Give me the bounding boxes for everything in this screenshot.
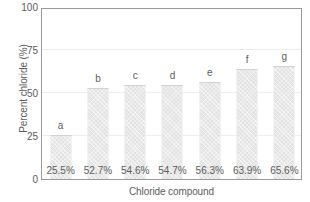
bar-value-b: 52.7% — [84, 166, 112, 176]
bar-letter-e: e — [207, 68, 213, 78]
bar-group-a[interactable]: a25.5% — [42, 9, 79, 179]
bar-value-g: 65.6% — [270, 166, 298, 176]
y-axis-ticks: 0255075100 — [14, 0, 38, 202]
bar-value-e: 56.3% — [196, 166, 224, 176]
bar-chart: Percent chloride (%) 0255075100 a25.5%b5… — [0, 0, 310, 202]
y-tick-label-75: 75 — [14, 46, 38, 56]
bar-letter-f: f — [246, 55, 249, 65]
bar-letter-g: g — [282, 52, 288, 62]
plot-area: a25.5%b52.7%c54.6%d54.7%e56.3%f63.9%g65.… — [41, 8, 302, 180]
bar-value-d: 54.7% — [158, 166, 186, 176]
bar-value-c: 54.6% — [121, 166, 149, 176]
bar-group-e[interactable]: e56.3% — [191, 9, 228, 179]
bar-letter-a: a — [58, 121, 64, 131]
bar-letter-d: d — [170, 71, 176, 81]
y-tick-label-25: 25 — [14, 132, 38, 142]
bar-series: a25.5%b52.7%c54.6%d54.7%e56.3%f63.9%g65.… — [42, 9, 301, 179]
bar-letter-c: c — [133, 71, 138, 81]
x-axis-title: Chloride compound — [41, 186, 302, 197]
bar-group-d[interactable]: d54.7% — [154, 9, 191, 179]
bar-value-a: 25.5% — [46, 166, 74, 176]
bar-f[interactable] — [237, 69, 258, 179]
bar-letter-b: b — [95, 74, 101, 84]
y-tick-label-100: 100 — [14, 3, 38, 13]
bar-group-c[interactable]: c54.6% — [117, 9, 154, 179]
bar-value-f: 63.9% — [233, 166, 261, 176]
bar-group-g[interactable]: g65.6% — [266, 9, 303, 179]
bar-group-f[interactable]: f63.9% — [228, 9, 265, 179]
bar-group-b[interactable]: b52.7% — [79, 9, 116, 179]
bar-g[interactable] — [274, 66, 295, 179]
y-tick-label-50: 50 — [14, 89, 38, 99]
y-tick-label-0: 0 — [14, 175, 38, 185]
